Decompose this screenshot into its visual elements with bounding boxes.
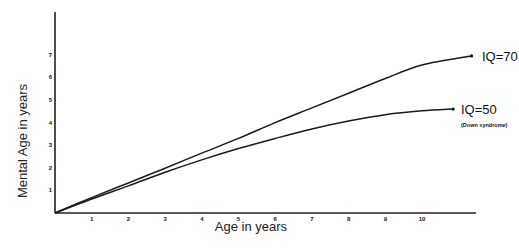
series-line-iq50 <box>55 109 453 213</box>
y-tick-label: 3 <box>49 142 53 148</box>
series-lines <box>55 54 473 213</box>
series-note-down-syndrome: (Down syndrome) <box>461 122 508 128</box>
y-tick-labels: 1234567 <box>49 52 53 194</box>
y-tick-label: 2 <box>49 165 53 171</box>
y-tick-label: 7 <box>49 52 53 58</box>
x-tick-label: 8 <box>347 216 351 222</box>
y-tick-label: 4 <box>49 120 53 126</box>
x-tick-label: 10 <box>419 216 426 222</box>
y-tick-label: 5 <box>49 97 53 103</box>
x-tick-label: 3 <box>163 216 167 222</box>
x-tick-label: 2 <box>127 216 131 222</box>
x-axis-title: Age in years <box>215 219 288 234</box>
series-end-marker <box>452 107 455 110</box>
series-label-iq50: IQ=50 <box>461 102 497 117</box>
series-end-marker <box>470 54 473 57</box>
y-tick-label: 1 <box>49 187 53 193</box>
y-tick-label: 6 <box>49 74 53 80</box>
x-tick-label: 4 <box>200 216 204 222</box>
line-chart: 12345678910 1234567 Age in years Mental … <box>0 0 519 248</box>
x-tick-label: 1 <box>90 216 94 222</box>
series-label-iq70: IQ=70 <box>482 49 518 64</box>
x-tick-label: 9 <box>384 216 388 222</box>
axes <box>55 12 476 213</box>
x-tick-label: 7 <box>310 216 314 222</box>
y-axis-title: Mental Age in years <box>15 83 30 198</box>
